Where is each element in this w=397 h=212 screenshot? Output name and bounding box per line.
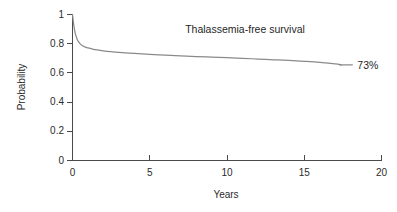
x-tick-label-15: 15 [299,168,310,178]
y-tick-label-0-2: 0.2 [40,126,64,136]
x-axis-ticks [73,155,382,160]
y-tick-label-0-6: 0.6 [40,68,64,78]
survival-chart-figure: Probability Years Thalassemia-free survi… [0,0,397,212]
y-axis-title: Probability [17,64,27,111]
x-tick-label-5: 5 [147,168,153,178]
axes-group [67,14,382,161]
y-tick-label-0: 0 [40,156,64,166]
y-tick-label-0-4: 0.4 [40,97,64,107]
endpoint-annotation-label: 73% [357,60,378,71]
x-tick-label-10: 10 [221,168,232,178]
y-axis-ticks [67,15,72,161]
x-axis-title: Years [213,190,238,200]
x-tick-label-0: 0 [70,168,76,178]
y-tick-label-1: 1 [40,10,64,20]
y-tick-label-0-8: 0.8 [40,39,64,49]
x-tick-label-20: 20 [376,168,387,178]
chart-title: Thalassemia-free survival [185,24,305,35]
